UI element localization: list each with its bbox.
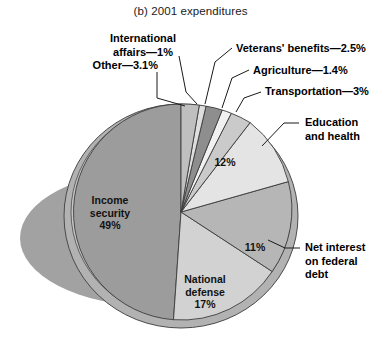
leader-agriculture bbox=[222, 70, 249, 108]
slice-label-income-security: Income security 49% bbox=[60, 194, 160, 232]
label-net-interest: Net interest on federal debt bbox=[305, 241, 366, 282]
label-international-affairs: International affairs—1% bbox=[78, 32, 208, 59]
slice-label-income-security-line1: Income bbox=[60, 194, 160, 207]
label-net-interest-line3: debt bbox=[305, 268, 366, 282]
slice-label-income-security-line2: security bbox=[60, 207, 160, 220]
label-veterans-benefits: Veterans' benefits—2.5% bbox=[236, 42, 366, 56]
slice-label-education-health-pct: 12% bbox=[205, 156, 245, 169]
slice-label-income-security-pct: 49% bbox=[60, 219, 160, 232]
label-transportation: Transportation—3% bbox=[265, 85, 369, 99]
slice-label-net-interest-pct: 11% bbox=[235, 241, 275, 254]
leader-other bbox=[157, 72, 185, 106]
leader-veterans bbox=[205, 48, 232, 104]
leader-transportation bbox=[236, 92, 261, 112]
label-agriculture: Agriculture—1.4% bbox=[253, 64, 348, 78]
slice-label-national-defense-pct: 17% bbox=[155, 298, 255, 311]
slice-label-national-defense-line2: defense bbox=[155, 286, 255, 299]
label-education-health-line1: Education bbox=[305, 116, 360, 130]
label-net-interest-line2: on federal bbox=[305, 255, 366, 269]
label-education-health-line2: and health bbox=[305, 130, 360, 144]
label-net-interest-line1: Net interest bbox=[305, 241, 366, 255]
label-international-affairs-line1: International bbox=[78, 32, 208, 46]
slice-label-national-defense: National defense 17% bbox=[155, 273, 255, 311]
label-international-affairs-line2: affairs—1% bbox=[78, 46, 208, 60]
leader-international bbox=[179, 56, 197, 104]
slice-label-national-defense-line1: National bbox=[155, 273, 255, 286]
label-education-health: Education and health bbox=[305, 116, 360, 143]
pie-chart-figure: (b) 2001 expenditures bbox=[0, 0, 381, 344]
label-other: Other—3.1% bbox=[38, 59, 158, 73]
